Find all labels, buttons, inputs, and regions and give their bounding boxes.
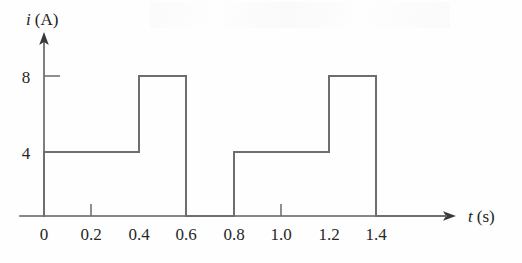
- figure-canvas: 8 4 i(A) 0 0.2 0.4 0.6 0.8 1.0 1.2 1.4 t…: [0, 0, 522, 263]
- x-tick-label-0.2: 0.2: [80, 225, 101, 244]
- x-tick-label-1.0: 1.0: [270, 225, 291, 244]
- waveform-trace: [44, 76, 447, 216]
- y-tick-label-8: 8: [22, 68, 31, 87]
- y-axis-title: i(A): [26, 10, 58, 29]
- x-tick-label-0.8: 0.8: [223, 225, 244, 244]
- y-axis-group: [39, 32, 60, 216]
- x-axis-unit: (s): [477, 207, 495, 226]
- y-axis-symbol: i: [26, 10, 31, 29]
- current-waveform-chart: 8 4 i(A) 0 0.2 0.4 0.6 0.8 1.0 1.2 1.4 t…: [0, 0, 522, 263]
- x-tick-label-0: 0: [40, 225, 49, 244]
- x-tick-label-0.4: 0.4: [128, 225, 150, 244]
- x-axis-symbol: t: [468, 207, 474, 226]
- x-tick-label-0.6: 0.6: [175, 225, 196, 244]
- x-tick-label-1.4: 1.4: [365, 225, 387, 244]
- x-axis-group: [20, 204, 456, 221]
- x-tick-label-1.2: 1.2: [318, 225, 339, 244]
- y-tick-label-4: 4: [22, 144, 31, 163]
- x-axis-title: t(s): [468, 207, 495, 226]
- y-axis-unit: (A): [35, 10, 59, 29]
